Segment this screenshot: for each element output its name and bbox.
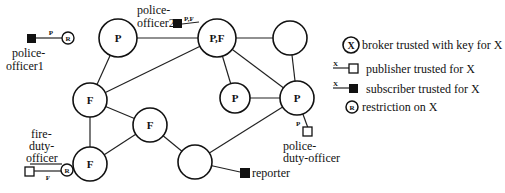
svg-text:restriction on X: restriction on X [362,100,438,114]
legend-broker: X broker trusted with key for X [343,37,503,53]
subscriber-icon [240,168,250,178]
svg-text:duty-officer: duty-officer [283,151,340,165]
svg-text:F: F [87,158,94,170]
svg-text:X: X [333,80,338,88]
subscriber-icon [349,84,358,93]
svg-text:officer2: officer2 [137,16,175,30]
broker-node: P [220,83,250,113]
police-officer2-subscriber: police- officer2 P,F [137,3,194,30]
svg-text:police-: police- [137,3,170,17]
legend-publisher: X publisher trusted for X [333,60,475,76]
fire-duty-officer-publisher: fire- duty- officer F R [25,127,73,182]
police-officer1-subscriber: P R police- officer1 [6,29,74,73]
svg-text:P: P [115,32,122,44]
publisher-icon [349,64,358,73]
broker-node [273,21,307,55]
svg-text:officer: officer [26,151,58,165]
broker-node: F [73,83,107,117]
svg-text:F: F [87,94,94,106]
svg-text:X: X [333,60,338,68]
legend: X broker trusted with key for X X publis… [333,37,503,114]
broker-node: F [133,108,167,142]
police-duty-officer-publisher: P police- duty-officer [283,120,340,165]
svg-text:P: P [232,92,239,104]
svg-text:broker trusted with key for X: broker trusted with key for X [362,38,503,52]
svg-text:officer1: officer1 [6,59,44,73]
svg-text:reporter: reporter [252,166,290,180]
legend-subscriber: X subscriber trusted for X [333,80,480,96]
publisher-icon [303,127,312,136]
svg-text:F: F [46,174,50,182]
publisher-icon [25,167,34,176]
broker-node [178,145,212,179]
subscriber-icon [173,19,182,28]
broker-node: P [280,81,314,115]
svg-text:P: P [296,120,301,128]
svg-text:subscriber trusted for X: subscriber trusted for X [366,82,480,96]
subscriber-icon [27,34,36,43]
trust-network-diagram: P P,F F F P P F P R police- officer1 p [0,0,505,193]
svg-text:police-: police- [12,46,45,60]
svg-text:publisher trusted for X: publisher trusted for X [366,62,475,76]
svg-text:P: P [294,92,301,104]
svg-text:P,F: P,F [184,15,194,23]
broker-node: F [73,147,107,181]
edges [30,22,308,172]
svg-text:F: F [147,119,154,131]
broker-node: P [99,19,137,57]
svg-text:P: P [49,29,54,37]
svg-text:X: X [347,40,355,51]
diagram-canvas: P P,F F F P P F P R police- officer1 p [0,0,505,193]
reporter-subscriber: reporter [240,166,290,180]
svg-text:P,F: P,F [209,32,224,44]
legend-restriction: R restriction on X [346,100,438,114]
broker-node: P,F [198,19,236,57]
